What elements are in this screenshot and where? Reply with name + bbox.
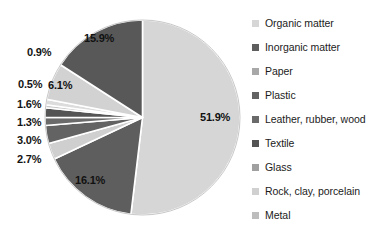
legend-item-label: Organic matter <box>265 17 334 29</box>
slice-label-inorganic-matter: 16.1% <box>75 175 105 186</box>
slice-label-organic-matter: 51.9% <box>200 112 230 123</box>
legend-item-plastic[interactable]: Plastic <box>252 88 296 102</box>
slice-label-metal: 6.1% <box>48 80 72 91</box>
legend-item-label: Inorganic matter <box>265 41 340 53</box>
legend-item-textile[interactable]: Textile <box>252 136 294 150</box>
chart-legend: Organic matter Inorganic matter Paper Pl… <box>252 8 383 230</box>
legend-item-leather-rubber-wood[interactable]: Leather, rubber, wood <box>252 112 366 126</box>
slice-label-textile: 1.6% <box>17 99 41 110</box>
legend-swatch-icon <box>252 68 259 75</box>
legend-item-label: Leather, rubber, wood <box>265 113 366 125</box>
legend-swatch-icon <box>252 164 259 171</box>
legend-item-paper[interactable]: Paper <box>252 64 293 78</box>
legend-swatch-icon <box>252 140 259 147</box>
legend-item-inorganic-matter[interactable]: Inorganic matter <box>252 40 340 54</box>
legend-swatch-icon <box>252 212 259 219</box>
legend-item-glass[interactable]: Glass <box>252 160 292 174</box>
legend-swatch-icon <box>252 92 259 99</box>
legend-item-label: Rock, clay, porcelain <box>265 185 360 197</box>
pie-plot-area: 51.9% 16.1% 2.7% 3.0% 1.3% 1.6% 0.5% 0.9… <box>0 0 250 235</box>
legend-item-label: Glass <box>265 161 292 173</box>
legend-item-label: Textile <box>265 137 294 149</box>
legend-item-organic-matter[interactable]: Organic matter <box>252 16 334 30</box>
slice-label-glass: 0.5% <box>18 79 42 90</box>
legend-item-label: Paper <box>265 65 293 77</box>
legend-item-label: Plastic <box>265 89 296 101</box>
slice-label-paper: 2.7% <box>17 154 41 165</box>
legend-swatch-icon <box>252 20 259 27</box>
slice-label-plastic: 3.0% <box>17 135 41 146</box>
slice-label-rock-clay-porcelain: 0.9% <box>27 47 51 58</box>
legend-item-metal[interactable]: Metal <box>252 208 290 222</box>
legend-item-label: Metal <box>265 209 290 221</box>
pie-chart-figure: 51.9% 16.1% 2.7% 3.0% 1.3% 1.6% 0.5% 0.9… <box>0 0 383 235</box>
legend-swatch-icon <box>252 116 259 123</box>
legend-item-particles-under-10mm[interactable]: Particles < 10 mm <box>252 232 348 235</box>
legend-swatch-icon <box>252 44 259 51</box>
legend-item-label: Particles < 10 mm <box>265 233 348 235</box>
slice-label-leather-rubber-wood: 1.3% <box>17 117 41 128</box>
legend-item-rock-clay-porcelain[interactable]: Rock, clay, porcelain <box>252 184 360 198</box>
legend-swatch-icon <box>252 188 259 195</box>
slice-label-particles-under-10mm: 15.9% <box>84 33 114 44</box>
